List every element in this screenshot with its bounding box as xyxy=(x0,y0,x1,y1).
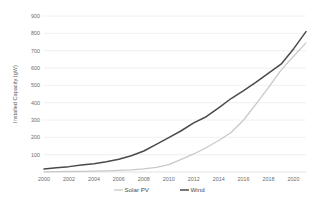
y-tick-label: 200 xyxy=(31,134,40,140)
y-axis-tick-labels: 100200300400500600700800900 xyxy=(31,13,40,158)
x-tick-label: 2010 xyxy=(163,176,175,182)
legend-label-wind: Wind xyxy=(191,186,206,193)
y-tick-label: 900 xyxy=(31,13,40,19)
x-tick-label: 2000 xyxy=(38,176,50,182)
y-tick-label: 300 xyxy=(31,117,40,123)
x-tick-label: 2016 xyxy=(238,176,250,182)
y-axis-title: Installed Capacity (gW) xyxy=(12,65,18,123)
y-tick-label: 500 xyxy=(31,82,40,88)
x-tick-label: 2002 xyxy=(63,176,75,182)
legend-label-solar-pv: Solar PV xyxy=(125,186,150,193)
y-tick-label: 400 xyxy=(31,100,40,106)
x-tick-label: 2012 xyxy=(188,176,200,182)
y-tick-label: 700 xyxy=(31,48,40,54)
chart-container: 100200300400500600700800900 200020022004… xyxy=(0,0,313,208)
x-tick-label: 2014 xyxy=(213,176,225,182)
x-tick-label: 2020 xyxy=(288,176,300,182)
line-chart: 100200300400500600700800900 200020022004… xyxy=(0,0,313,208)
x-tick-label: 2018 xyxy=(263,176,275,182)
y-tick-label: 800 xyxy=(31,30,40,36)
y-tick-label: 600 xyxy=(31,65,40,71)
x-tick-label: 2004 xyxy=(88,176,100,182)
x-tick-label: 2006 xyxy=(113,176,125,182)
x-tick-label: 2008 xyxy=(138,176,150,182)
y-axis-title-text: Installed Capacity (gW) xyxy=(12,65,18,123)
y-tick-label: 100 xyxy=(31,152,40,158)
